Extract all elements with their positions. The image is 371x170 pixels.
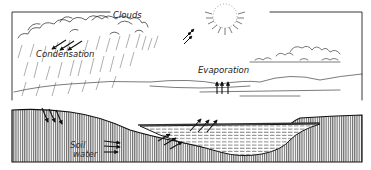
sun-icon	[205, 4, 245, 35]
fair-weather-clouds	[250, 46, 340, 62]
clouds-label: Clouds	[113, 10, 142, 20]
evaporation-label: Evaporation	[198, 65, 249, 75]
rain	[18, 34, 158, 96]
evaporation-arrows-air	[183, 29, 194, 44]
horizon-hills	[14, 74, 362, 96]
condensation-label: Condensation	[36, 49, 94, 59]
water-cycle-diagram: Clouds Condensation Evaporation Soil wat…	[0, 0, 371, 170]
